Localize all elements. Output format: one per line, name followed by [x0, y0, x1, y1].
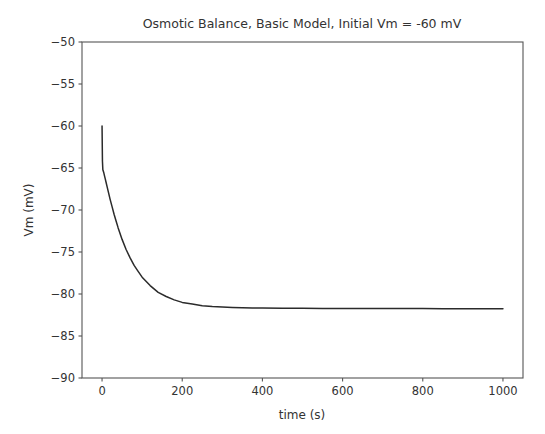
- x-tick-label: 1000: [488, 384, 517, 398]
- x-axis-tick-labels: 02004006008001000: [98, 384, 517, 398]
- data-series-group: [102, 126, 503, 309]
- x-tick-label: 800: [412, 384, 434, 398]
- chart-title: Osmotic Balance, Basic Model, Initial Vm…: [143, 16, 462, 31]
- y-tick-label: −65: [51, 161, 75, 175]
- chart-plot: Osmotic Balance, Basic Model, Initial Vm…: [0, 0, 545, 434]
- y-tick-label: −90: [51, 371, 75, 385]
- x-tick-label: 0: [98, 384, 105, 398]
- data-line-Vm: [102, 126, 503, 309]
- y-tick-label: −85: [51, 329, 75, 343]
- y-tick-label: −70: [51, 203, 75, 217]
- y-tick-label: −75: [51, 245, 75, 259]
- y-tick-label: −60: [51, 119, 75, 133]
- y-axis-tick-labels: −90−85−80−75−70−65−60−55−50: [51, 35, 75, 385]
- x-tick-label: 200: [171, 384, 193, 398]
- x-tick-label: 400: [251, 384, 273, 398]
- y-axis-label: Vm (mV): [22, 184, 36, 237]
- x-tick-label: 600: [332, 384, 354, 398]
- y-tick-label: −80: [51, 287, 75, 301]
- x-axis-label: time (s): [279, 408, 326, 422]
- figure-canvas: Osmotic Balance, Basic Model, Initial Vm…: [0, 0, 545, 434]
- y-tick-label: −55: [51, 77, 75, 91]
- axes-frame: [82, 42, 523, 378]
- y-tick-label: −50: [51, 35, 75, 49]
